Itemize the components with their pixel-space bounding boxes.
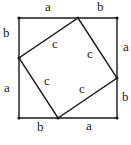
label-top-b: b: [97, 0, 104, 14]
vertex-dots: [17, 16, 118, 119]
hypotenuse-labels: c c c c: [44, 36, 93, 96]
vertex-dot: [17, 56, 20, 59]
corner-dot: [17, 16, 20, 19]
vertex-dot: [76, 16, 79, 19]
outer-square: [19, 18, 117, 118]
label-right-b: b: [122, 89, 129, 104]
label-c-top-right: c: [87, 46, 93, 61]
corner-dot: [115, 16, 118, 19]
corner-dot: [17, 116, 20, 119]
label-left-b: b: [3, 25, 10, 40]
label-bottom-a: a: [86, 118, 92, 133]
label-c-bottom-right: c: [79, 81, 85, 96]
label-c-bottom-left: c: [44, 73, 50, 88]
label-c-top-left: c: [52, 36, 58, 51]
inner-square: [19, 18, 117, 118]
vertex-dot: [56, 116, 59, 119]
pythagorean-diagram: a b a b b a b a c c c c: [0, 0, 131, 145]
label-top-a: a: [45, 0, 51, 14]
vertex-dot: [115, 76, 118, 79]
label-bottom-b: b: [37, 119, 44, 134]
label-right-a: a: [123, 39, 129, 54]
corner-dot: [115, 116, 118, 119]
label-left-a: a: [4, 80, 10, 95]
